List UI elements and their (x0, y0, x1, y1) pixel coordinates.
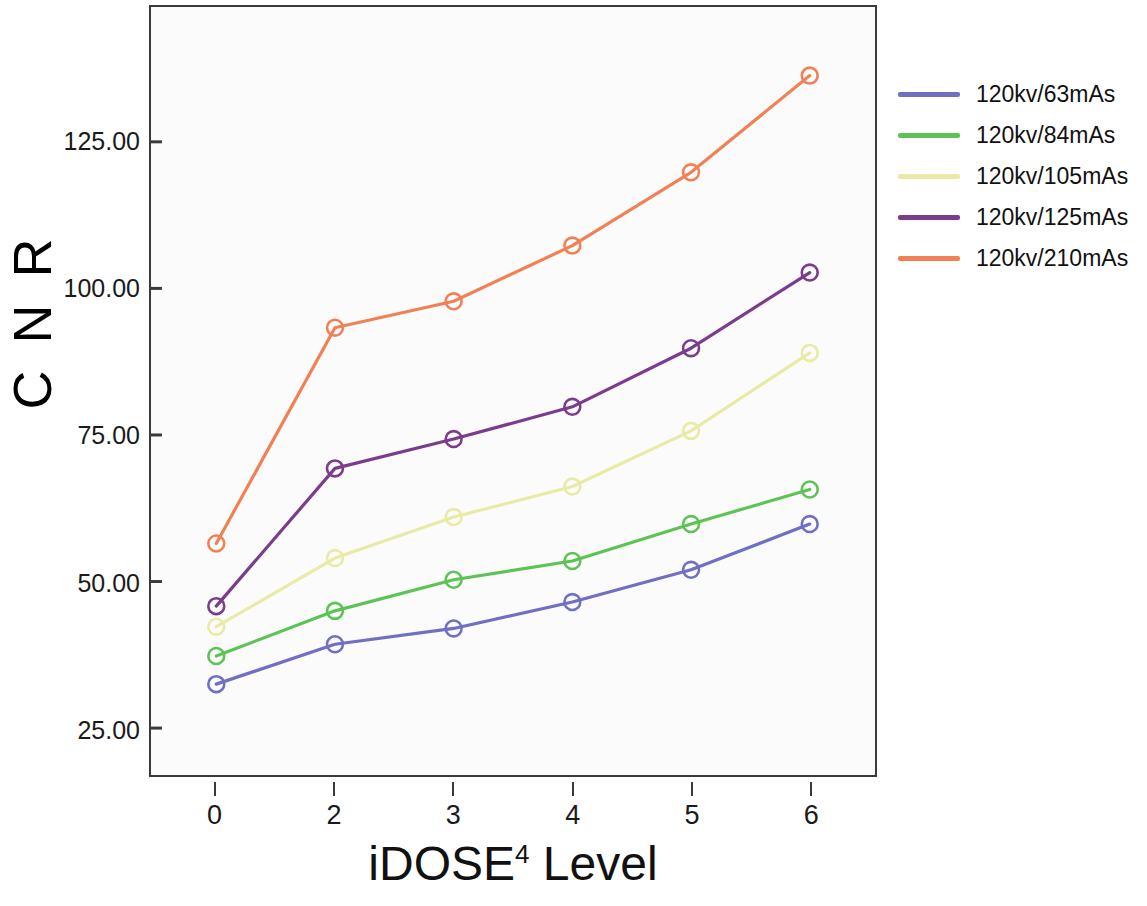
plot-svg (151, 7, 875, 775)
x-axis-tick-label: 6 (781, 800, 841, 831)
x-axis-title-base: iDOSE (368, 837, 515, 890)
legend-color-swatch (898, 256, 960, 261)
x-axis-tick-label: 0 (185, 800, 245, 831)
legend-item-label: 120kv/210mAs (976, 245, 1128, 272)
series-line-4 (208, 265, 817, 614)
x-axis-title: iDOSE4 Level (149, 836, 877, 891)
legend-color-swatch (898, 174, 960, 179)
y-axis-tick-label: 50.00 (20, 568, 140, 597)
series-line-1 (208, 516, 817, 692)
y-axis-tick-label: 25.00 (20, 715, 140, 744)
y-axis-tick-label: 100.00 (20, 273, 140, 302)
series-path (216, 353, 809, 627)
x-axis-tick-mark (691, 782, 693, 796)
y-axis-tick-labels: 25.0050.0075.00100.00125.00 (10, 0, 140, 906)
y-axis-tick-label: 75.00 (20, 421, 140, 450)
legend-item[interactable]: 120kv/125mAs (898, 197, 1147, 238)
series-path (216, 76, 809, 544)
x-axis-tick-label: 3 (423, 800, 483, 831)
x-axis-tick-label: 4 (543, 800, 603, 831)
chart-figure: C N R 25.0050.0075.00100.00125.00 023456… (0, 0, 1147, 906)
series-line-5 (208, 68, 817, 552)
x-axis-tick-label: 5 (662, 800, 722, 831)
x-axis-tick-mark (214, 782, 216, 796)
x-axis-tick-label: 2 (304, 800, 364, 831)
x-axis-tick-mark (452, 782, 454, 796)
series-path (216, 273, 809, 607)
x-axis-tick-labels: 023456 (149, 782, 877, 832)
x-axis-tick-mark (333, 782, 335, 796)
legend-item[interactable]: 120kv/210mAs (898, 238, 1147, 279)
series-path (216, 524, 809, 684)
legend-item-label: 120kv/63mAs (976, 81, 1115, 108)
x-axis-tick-mark (810, 782, 812, 796)
series-path (216, 489, 809, 656)
series-line-3 (208, 345, 817, 635)
legend-item-label: 120kv/105mAs (976, 163, 1128, 190)
legend-item-label: 120kv/84mAs (976, 122, 1115, 149)
y-axis-tick-label: 125.00 (20, 126, 140, 155)
legend-item-label: 120kv/125mAs (976, 204, 1128, 231)
legend-color-swatch (898, 133, 960, 138)
legend-item[interactable]: 120kv/105mAs (898, 156, 1147, 197)
legend-item[interactable]: 120kv/84mAs (898, 115, 1147, 156)
plot-area (149, 5, 877, 777)
legend: 120kv/63mAs120kv/84mAs120kv/105mAs120kv/… (898, 74, 1147, 279)
legend-color-swatch (898, 92, 960, 97)
x-axis-tick-mark (572, 782, 574, 796)
legend-color-swatch (898, 215, 960, 220)
x-axis-title-tail: Level (530, 837, 658, 890)
x-axis-title-superscript: 4 (515, 839, 529, 869)
legend-item[interactable]: 120kv/63mAs (898, 74, 1147, 115)
